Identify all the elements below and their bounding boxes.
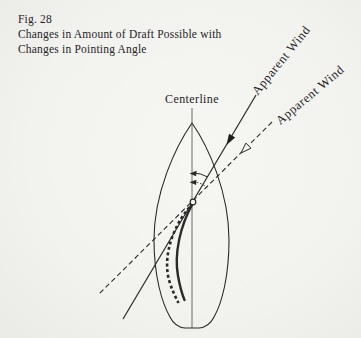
flat-draft-sail-curve [177, 203, 193, 300]
hull-outline [154, 123, 229, 328]
book-figure-page: Fig. 28 Changes in Amount of Draft Possi… [0, 0, 361, 338]
draft-pointing-diagram [0, 0, 361, 338]
arc-arrowhead-low [190, 180, 197, 185]
arc-arrowhead-high [190, 171, 197, 176]
apparent-wind-arrowhead-filled [227, 134, 236, 145]
centerline-label: Centerline [157, 92, 227, 107]
apparent-wind-arrowhead-open [241, 143, 251, 153]
mast-point [190, 199, 196, 205]
